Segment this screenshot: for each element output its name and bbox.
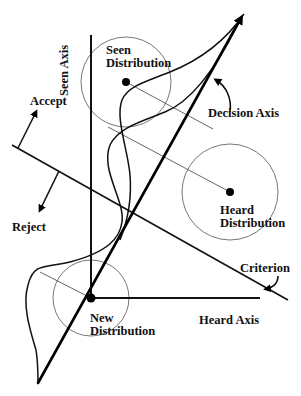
new-projection-line xyxy=(40,272,91,298)
criterion-label: Criterion xyxy=(240,261,290,275)
heard-distribution-center-dot xyxy=(226,188,234,196)
new-distribution-label-line2: Distribution xyxy=(90,324,155,338)
heard-axis-label: Heard Axis xyxy=(199,313,259,327)
heard-projection-line xyxy=(108,127,230,192)
accept-arrow xyxy=(18,112,36,148)
seen-distribution-label-line2: Distribution xyxy=(106,56,171,70)
recognition-decision-diagram: Seen Axis Heard Axis Decision Axis Seen … xyxy=(0,0,301,396)
seen-distribution-label-line1: Seen xyxy=(106,43,131,57)
decision-axis-label: Decision Axis xyxy=(208,106,279,120)
accept-label: Accept xyxy=(30,94,68,108)
new-distribution-label-line1: New xyxy=(90,311,114,325)
seen-distribution-center-dot xyxy=(122,78,130,86)
criterion-callout-arrow xyxy=(266,276,278,289)
heard-distribution-label-line1: Heard xyxy=(220,203,254,217)
reject-arrow xyxy=(40,171,59,210)
reject-label: Reject xyxy=(12,220,47,234)
heard-distribution-label-line2: Distribution xyxy=(220,216,285,230)
seen-axis-label: Seen Axis xyxy=(57,45,71,96)
new-distribution-center-dot xyxy=(87,294,96,303)
